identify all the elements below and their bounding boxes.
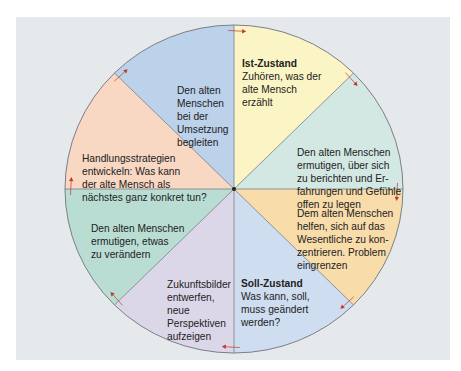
sector-label-wesentliches: Dem alten Menschen helfen, sich auf das …	[297, 194, 393, 272]
sector-title: Soll-Zustand	[241, 277, 310, 290]
sector-text: Dem alten Menschen helfen, sich auf das …	[297, 208, 393, 271]
sector-text: Zuhören, was der alte Mensch erzählt	[242, 71, 321, 108]
sector-text: Handlungsstrategien entwickeln: Was kann…	[82, 153, 207, 203]
sector-label-ermutigen-veraendern: Den alten Menschen ermutigen, etwas zu v…	[91, 209, 184, 261]
sector-label-ist-zustand: Ist-ZustandZuhören, was der alte Mensch …	[242, 44, 321, 109]
center-dot	[232, 187, 236, 191]
sector-label-umsetzung: Den alten Menschen bei der Umsetzung beg…	[177, 71, 229, 149]
sector-text: Den alten Menschen ermutigen, etwas zu v…	[91, 223, 184, 260]
sector-label-zukunftsbilder: Zukunftsbilder entwerfen, neue Perspekti…	[167, 265, 231, 343]
sector-text: Was kann, soll, muss geändert werden?	[241, 291, 310, 328]
sector-text: Den alten Menschen bei der Umsetzung beg…	[177, 85, 229, 148]
sector-text: Zukunftsbilder entwerfen, neue Perspekti…	[167, 279, 231, 342]
sector-label-soll-zustand: Soll-ZustandWas kann, soll, muss geänder…	[241, 264, 310, 329]
sector-title: Ist-Zustand	[242, 57, 321, 70]
